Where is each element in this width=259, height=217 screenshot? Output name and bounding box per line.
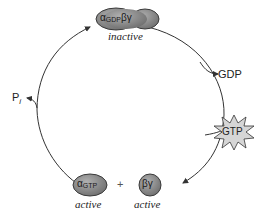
inactive-label: inactive [108,30,143,42]
beta-gamma-active-label: active [134,198,160,210]
pi-release-arrow [27,98,37,108]
gdp-subscript: GDP [106,16,121,23]
pi-subscript: i [19,97,21,106]
gdp-release-arrow [200,62,218,74]
gdp-label: GDP [218,68,242,80]
alpha-gtp-label: αGTP [77,178,97,189]
beta-gamma-label: βγ [142,178,153,189]
plus-sign: + [117,178,123,190]
gtp-subscript: GTP [83,182,97,189]
trimer-label: αGDPβγ [100,12,132,23]
arc-right [148,27,224,183]
pi-label: Pi [12,91,21,106]
arc-left [37,27,90,187]
beta-gamma-symbol: βγ [121,12,132,23]
gtp-label: GTP [222,126,243,137]
alpha-active-label: active [75,198,101,210]
